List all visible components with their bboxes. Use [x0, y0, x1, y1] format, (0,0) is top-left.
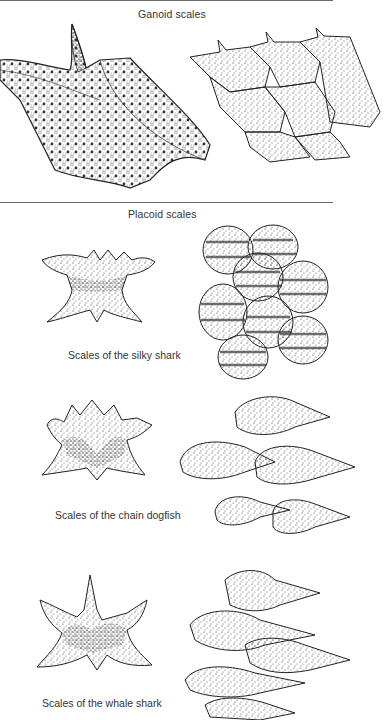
- section-title-ganoid: Ganoid scales: [138, 8, 206, 20]
- caption-chain-dogfish: Scales of the chain dogfish: [55, 509, 181, 521]
- whale-shark-scale-cluster-illustration: [185, 565, 360, 720]
- chain-dogfish-single-scale-illustration: [42, 400, 157, 485]
- overlapping-ganoid-scales-illustration: [190, 32, 386, 162]
- whale-shark-single-scale-illustration: [32, 575, 157, 675]
- silky-shark-scale-cluster-illustration: [198, 222, 333, 382]
- single-ganoid-scale-illustration: [0, 20, 215, 190]
- chain-dogfish-scale-cluster-illustration: [175, 392, 360, 542]
- section-title-placoid: Placoid scales: [128, 208, 197, 220]
- section-divider-rule: [0, 202, 333, 203]
- caption-whale-shark: Scales of the whale shark: [42, 697, 162, 709]
- silky-shark-single-scale-illustration: [42, 250, 157, 335]
- caption-silky-shark: Scales of the silky shark: [68, 349, 181, 361]
- top-rule: [0, 0, 333, 1]
